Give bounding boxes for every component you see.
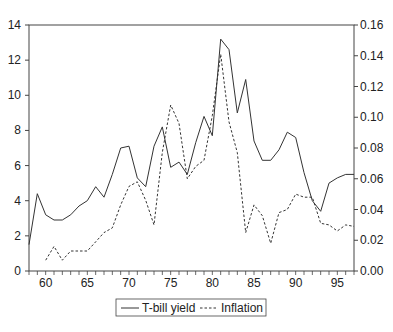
x-axis: 6065707580859095	[29, 271, 354, 290]
right-tick-label: 0.14	[360, 49, 384, 63]
right-tick-label: 0.04	[360, 203, 384, 217]
series-line-t-bill-yield	[29, 39, 354, 245]
left-tick-label: 14	[8, 18, 22, 32]
series-layer	[29, 39, 354, 260]
right-tick-label: 0.12	[360, 80, 384, 94]
left-tick-label: 2	[14, 229, 21, 243]
left-y-axis: 02468101214	[8, 18, 29, 278]
left-tick-label: 10	[8, 88, 22, 102]
x-tick-label: 70	[122, 276, 136, 290]
x-tick-label: 80	[206, 276, 220, 290]
x-tick-label: 85	[247, 276, 261, 290]
x-tick-label: 65	[81, 276, 95, 290]
left-tick-label: 6	[14, 159, 21, 173]
series-line-inflation	[46, 54, 354, 260]
right-y-axis: 0.000.020.040.060.080.100.120.140.16	[354, 18, 384, 278]
right-tick-label: 0.00	[360, 264, 384, 278]
right-tick-label: 0.10	[360, 110, 384, 124]
dual-axis-line-chart: 02468101214 0.000.020.040.060.080.100.12…	[0, 0, 393, 332]
legend: T-bill yield Inflation	[116, 299, 266, 316]
left-tick-label: 8	[14, 123, 21, 137]
right-tick-label: 0.08	[360, 141, 384, 155]
x-tick-label: 90	[289, 276, 303, 290]
legend-label-tbill: T-bill yield	[142, 301, 195, 315]
left-tick-label: 0	[14, 264, 21, 278]
right-tick-label: 0.06	[360, 172, 384, 186]
right-tick-label: 0.02	[360, 233, 384, 247]
plot-border	[29, 25, 354, 271]
right-tick-label: 0.16	[360, 18, 384, 32]
x-tick-label: 95	[331, 276, 345, 290]
x-tick-label: 75	[164, 276, 178, 290]
plot-frame	[29, 25, 354, 271]
left-tick-label: 4	[14, 194, 21, 208]
legend-label-inflation: Inflation	[221, 301, 263, 315]
x-tick-label: 60	[39, 276, 53, 290]
left-tick-label: 12	[8, 53, 22, 67]
